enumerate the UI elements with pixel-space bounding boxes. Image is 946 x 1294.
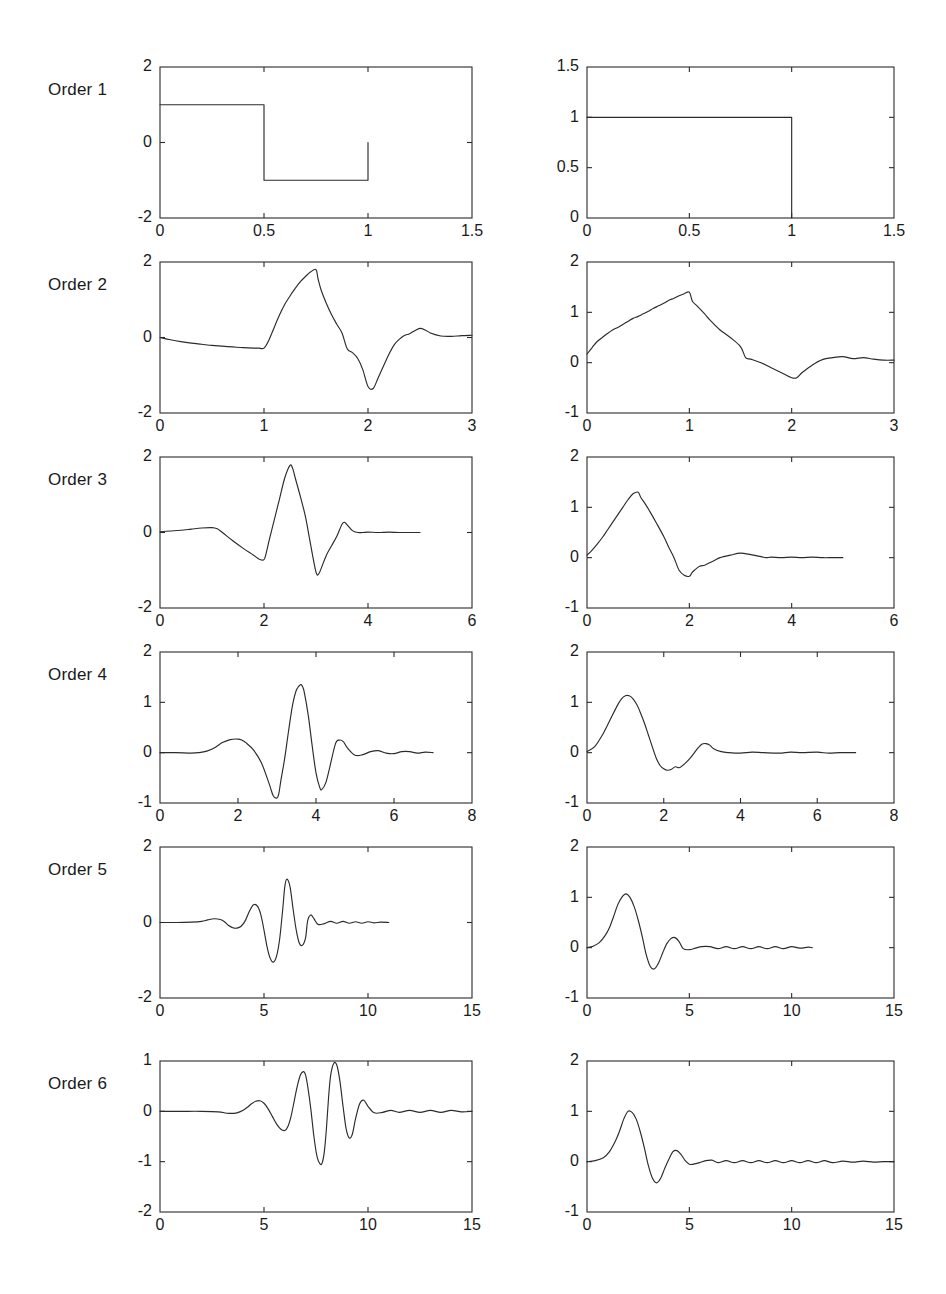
y-tick-label: -1 <box>565 1202 579 1219</box>
data-curve <box>160 685 433 799</box>
plot-frame <box>587 847 894 998</box>
x-tick-label: 6 <box>813 807 822 824</box>
x-tick-label: 8 <box>468 807 477 824</box>
x-tick-label: 3 <box>468 417 477 434</box>
y-tick-label: 0 <box>143 913 152 930</box>
x-tick-label: 0 <box>583 222 592 239</box>
y-tick-label: 0 <box>143 1102 152 1119</box>
y-tick-label: 2 <box>143 642 152 659</box>
plot-frame <box>587 67 894 218</box>
x-tick-label: 15 <box>885 1216 903 1233</box>
y-tick-label: 0 <box>570 548 579 565</box>
y-tick-label: 0 <box>570 743 579 760</box>
y-tick-label: 1 <box>570 1102 579 1119</box>
y-tick-label: 1 <box>570 498 579 515</box>
x-tick-label: 6 <box>468 612 477 629</box>
x-tick-label: 1 <box>787 222 796 239</box>
y-tick-label: 2 <box>570 447 579 464</box>
y-tick-label: 1.5 <box>557 57 579 74</box>
plot-panel-order5-wavelet: 051015-202 <box>114 835 502 1032</box>
x-tick-label: 2 <box>685 612 694 629</box>
y-tick-label: 0 <box>570 208 579 225</box>
x-tick-label: 0 <box>583 1216 592 1233</box>
y-tick-label: 0 <box>143 523 152 540</box>
plot-frame <box>587 262 894 413</box>
y-tick-label: 0 <box>570 353 579 370</box>
row-label-order-5: Order 5 <box>48 860 107 880</box>
x-tick-label: 4 <box>736 807 745 824</box>
x-tick-label: 2 <box>787 417 796 434</box>
y-tick-label: -1 <box>565 793 579 810</box>
x-tick-label: 1 <box>685 417 694 434</box>
y-tick-label: -1 <box>565 403 579 420</box>
plot-frame <box>160 457 472 608</box>
data-curve <box>160 879 389 962</box>
row-label-order-1: Order 1 <box>48 80 107 100</box>
y-tick-label: 0 <box>570 1152 579 1169</box>
y-tick-label: -1 <box>138 1152 152 1169</box>
plot-panel-order6-wavelet: 051015-2-101 <box>114 1049 502 1246</box>
plot-frame <box>160 262 472 413</box>
y-tick-label: 0 <box>143 133 152 150</box>
y-tick-label: 1 <box>570 108 579 125</box>
y-tick-label: 0.5 <box>557 158 579 175</box>
plot-panel-order3-scaling: 0246-1012 <box>541 445 924 642</box>
plot-panel-order1-scaling: 00.511.500.511.5 <box>541 55 924 252</box>
x-tick-label: 0 <box>583 1002 592 1019</box>
data-curve <box>587 492 843 576</box>
plot-frame <box>587 652 894 803</box>
x-tick-label: 4 <box>312 807 321 824</box>
x-tick-label: 2 <box>659 807 668 824</box>
y-tick-label: 2 <box>143 252 152 269</box>
y-tick-label: 2 <box>143 837 152 854</box>
x-tick-label: 0 <box>156 1216 165 1233</box>
data-curve <box>587 894 812 969</box>
x-tick-label: 5 <box>260 1002 269 1019</box>
x-tick-label: 15 <box>463 1216 481 1233</box>
y-tick-label: -1 <box>565 598 579 615</box>
x-tick-label: 4 <box>787 612 796 629</box>
y-tick-label: -2 <box>138 208 152 225</box>
x-tick-label: 1.5 <box>461 222 483 239</box>
y-tick-label: 1 <box>570 303 579 320</box>
y-tick-label: 1 <box>143 1051 152 1068</box>
y-tick-label: 1 <box>143 693 152 710</box>
x-tick-label: 6 <box>890 612 899 629</box>
plot-panel-order5-scaling: 051015-1012 <box>541 835 924 1032</box>
x-tick-label: 10 <box>783 1002 801 1019</box>
x-tick-label: 5 <box>685 1002 694 1019</box>
y-tick-label: 0 <box>143 743 152 760</box>
row-label-order-2: Order 2 <box>48 275 107 295</box>
plot-frame <box>160 1061 472 1212</box>
x-tick-label: 5 <box>260 1216 269 1233</box>
x-tick-label: 1 <box>364 222 373 239</box>
y-tick-label: 0 <box>570 938 579 955</box>
row-label-order-6: Order 6 <box>48 1074 107 1094</box>
plot-panel-order2-scaling: 0123-1012 <box>541 250 924 447</box>
data-curve <box>160 465 420 575</box>
data-curve <box>160 105 368 181</box>
x-tick-label: 4 <box>364 612 373 629</box>
y-tick-label: 1 <box>570 888 579 905</box>
x-tick-label: 10 <box>359 1002 377 1019</box>
x-tick-label: 2 <box>260 612 269 629</box>
x-tick-label: 3 <box>890 417 899 434</box>
x-tick-label: 5 <box>685 1216 694 1233</box>
plot-panel-order4-wavelet: 02468-1012 <box>114 640 502 837</box>
row-label-order-3: Order 3 <box>48 470 107 490</box>
y-tick-label: -2 <box>138 988 152 1005</box>
x-tick-label: 0 <box>156 1002 165 1019</box>
x-tick-label: 0 <box>583 417 592 434</box>
x-tick-label: 2 <box>364 417 373 434</box>
plot-frame <box>587 1061 894 1212</box>
x-tick-label: 0.5 <box>678 222 700 239</box>
plot-frame <box>160 67 472 218</box>
plot-panel-order1-wavelet: 00.511.5-202 <box>114 55 502 252</box>
data-curve <box>160 1062 472 1164</box>
plot-frame <box>160 652 472 803</box>
plot-panel-order4-scaling: 02468-1012 <box>541 640 924 837</box>
data-curve <box>160 269 472 389</box>
y-tick-label: -1 <box>565 988 579 1005</box>
data-curve <box>587 117 792 218</box>
x-tick-label: 15 <box>463 1002 481 1019</box>
